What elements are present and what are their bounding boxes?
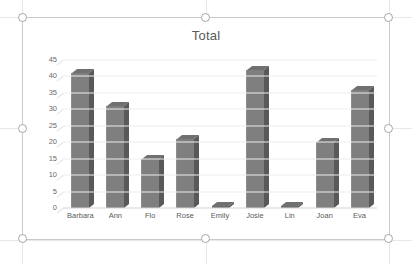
- gridline: [63, 191, 377, 192]
- x-axis-label: Emily: [203, 212, 238, 220]
- y-axis-tick-label: 5: [53, 188, 57, 196]
- bar-series[interactable]: [63, 60, 377, 208]
- y-axis-tick-label: 30: [49, 106, 57, 114]
- x-axis[interactable]: BarbaraAnnFloRoseEmilyJosieLinJoanEva: [63, 212, 377, 220]
- y-axis-tick-label: 35: [49, 89, 57, 97]
- y-axis[interactable]: 051015202530354045: [33, 60, 59, 208]
- resize-handle-bottom-center[interactable]: [201, 234, 210, 243]
- bar-column[interactable]: [63, 60, 98, 208]
- resize-handle-bottom-right[interactable]: [384, 234, 393, 243]
- x-axis-label: Flo: [133, 212, 168, 220]
- x-axis-label: Josie: [237, 212, 272, 220]
- y-axis-tick-label: 25: [49, 122, 57, 130]
- bar-column[interactable]: [203, 60, 238, 208]
- bar-column[interactable]: [342, 60, 377, 208]
- bar-side-face: [159, 155, 164, 208]
- bar-column[interactable]: [133, 60, 168, 208]
- axis-baseline: [63, 208, 377, 209]
- x-axis-label: Rose: [168, 212, 203, 220]
- bar-ann[interactable]: [106, 106, 124, 208]
- bar-josie[interactable]: [246, 70, 264, 208]
- x-axis-label: Joan: [307, 212, 342, 220]
- y-axis-tick-label: 45: [49, 56, 57, 64]
- resize-handle-top-center[interactable]: [201, 13, 210, 22]
- resize-handle-middle-right[interactable]: [384, 124, 393, 133]
- y-axis-tick-label: 40: [49, 73, 57, 81]
- resize-handle-top-left[interactable]: [18, 13, 27, 22]
- gridline: [63, 142, 377, 143]
- bar-side-face: [89, 69, 94, 208]
- gridline: [63, 109, 377, 110]
- gridline: [63, 125, 377, 126]
- chart-object[interactable]: Total 051015202530354045 BarbaraAnnFloRo…: [22, 17, 390, 240]
- bar-flo[interactable]: [141, 159, 159, 208]
- gridline: [63, 158, 377, 159]
- bar-side-face: [124, 102, 129, 208]
- resize-handle-bottom-left[interactable]: [18, 234, 27, 243]
- x-axis-label: Barbara: [63, 212, 98, 220]
- x-axis-label: Ann: [98, 212, 133, 220]
- gridline: [63, 60, 377, 61]
- x-axis-label: Eva: [342, 212, 377, 220]
- bar-column[interactable]: [98, 60, 133, 208]
- bar-side-face: [264, 66, 269, 208]
- bar-column[interactable]: [237, 60, 272, 208]
- y-axis-tick-label: 10: [49, 171, 57, 179]
- y-axis-tick-label: 15: [49, 155, 57, 163]
- bar-column[interactable]: [168, 60, 203, 208]
- bar-column[interactable]: [307, 60, 342, 208]
- y-axis-tick-label: 20: [49, 138, 57, 146]
- gridline: [63, 175, 377, 176]
- resize-handle-middle-left[interactable]: [18, 124, 27, 133]
- gridline: [63, 76, 377, 77]
- bar-side-face: [194, 135, 199, 208]
- chart-plot-wrapper: 051015202530354045 BarbaraAnnFloRoseEmil…: [33, 54, 381, 231]
- bar-side-face: [369, 86, 374, 208]
- gridline: [63, 92, 377, 93]
- bar-rose[interactable]: [176, 139, 194, 208]
- x-axis-label: Lin: [272, 212, 307, 220]
- bar-barbara[interactable]: [71, 73, 89, 208]
- resize-handle-top-right[interactable]: [384, 13, 393, 22]
- bar-column[interactable]: [272, 60, 307, 208]
- bar-side-face: [334, 138, 339, 208]
- plot-area[interactable]: [63, 60, 377, 208]
- chart-title[interactable]: Total: [23, 28, 389, 43]
- y-axis-tick-label: 0: [53, 204, 57, 212]
